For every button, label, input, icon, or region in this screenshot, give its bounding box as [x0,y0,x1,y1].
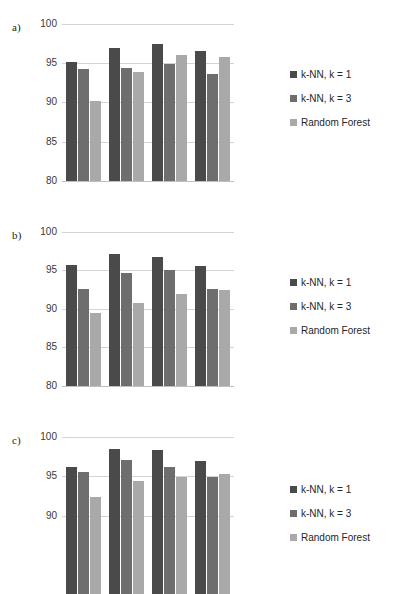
bar [121,460,132,594]
bar [176,477,187,594]
bar [152,450,163,594]
bar-group [66,437,101,594]
bar [195,461,206,594]
legend-label: k-NN, k = 3 [301,508,351,519]
y-axis-tick-label: 95 [27,471,57,481]
legend: k-NN, k = 1k-NN, k = 3Random Forest [290,477,370,549]
legend-item: Random Forest [290,525,370,549]
bar [164,467,175,594]
y-axis-tick-label: 90 [27,511,57,521]
bar [219,474,230,594]
legend-item: k-NN, k = 1 [290,477,370,501]
legend-swatch-icon [290,510,297,517]
panel-label: c) [12,434,21,446]
legend-swatch-icon [290,534,297,541]
bar [133,481,144,594]
bar [66,467,77,594]
bar [78,472,89,594]
legend-label: Random Forest [301,532,370,543]
bar [207,477,218,594]
legend-swatch-icon [290,486,297,493]
legend-label: k-NN, k = 1 [301,484,351,495]
legend-item: k-NN, k = 3 [290,501,370,525]
bar-groups [62,437,234,594]
bar [90,497,101,594]
plot-area: 1009590 [62,437,234,594]
bar-group [109,437,144,594]
bar-group [195,437,230,594]
bar-group [152,437,187,594]
y-axis-tick-label: 100 [27,432,57,442]
bar [109,449,120,594]
